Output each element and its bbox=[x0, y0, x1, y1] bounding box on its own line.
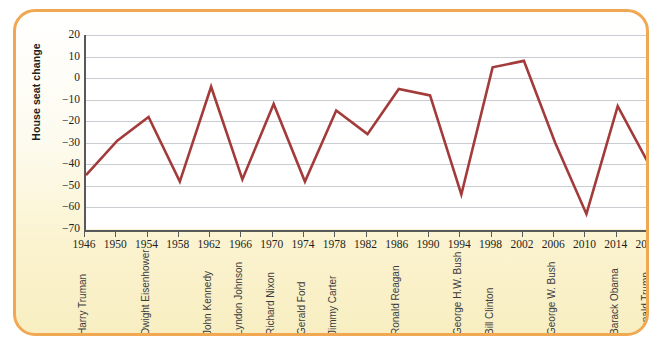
y-tick-label: −10 bbox=[50, 94, 80, 105]
y-axis-line bbox=[84, 35, 86, 231]
series-polyline bbox=[86, 61, 649, 214]
y-tick-label: −30 bbox=[50, 137, 80, 148]
x-tick bbox=[178, 232, 179, 237]
x-tick bbox=[366, 232, 367, 237]
president-label: Richard Nixon bbox=[266, 272, 276, 335]
y-tick-label: 10 bbox=[50, 51, 80, 62]
x-tick bbox=[303, 232, 304, 237]
x-tick bbox=[459, 232, 460, 237]
x-axis-tick-labels: 1946195019541958196219661970197419781982… bbox=[84, 238, 647, 254]
y-tick-label: 20 bbox=[50, 29, 80, 40]
x-tick bbox=[491, 232, 492, 237]
y-tick-label: −50 bbox=[50, 180, 80, 191]
x-tick bbox=[522, 232, 523, 237]
x-tick bbox=[647, 232, 648, 237]
y-tick-label: −60 bbox=[50, 201, 80, 212]
president-label: John Kennedy bbox=[203, 271, 213, 335]
y-axis-tick-labels: 20100−10−20−30−40−50−60−70 bbox=[44, 35, 80, 229]
x-tick bbox=[428, 232, 429, 237]
y-axis-title: House seat change bbox=[30, 32, 42, 152]
y-tick-label: −70 bbox=[50, 223, 80, 234]
x-tick bbox=[272, 232, 273, 237]
x-tick bbox=[334, 232, 335, 237]
chart-card: House seat change 20100−10−20−30−40−50−6… bbox=[13, 9, 649, 336]
series-line bbox=[86, 35, 649, 229]
x-tick bbox=[115, 232, 116, 237]
president-label: Jimmy Carter bbox=[328, 276, 338, 335]
x-tick bbox=[147, 232, 148, 237]
y-tick-label: 0 bbox=[50, 72, 80, 83]
x-tick bbox=[240, 232, 241, 237]
president-label: Donald Trump bbox=[641, 272, 649, 335]
president-label: Bill Clinton bbox=[485, 288, 495, 335]
president-label: Lyndon Johnson bbox=[234, 262, 244, 335]
x-tick bbox=[397, 232, 398, 237]
president-label: Harry Truman bbox=[78, 274, 88, 335]
x-tick-label: 2018 bbox=[627, 238, 649, 250]
y-tick-label: −20 bbox=[50, 115, 80, 126]
president-label: Barack Obama bbox=[610, 268, 620, 335]
plot-area bbox=[84, 35, 649, 229]
x-tick bbox=[584, 232, 585, 237]
x-tick bbox=[209, 232, 210, 237]
chart-figure: House seat change 20100−10−20−30−40−50−6… bbox=[0, 0, 662, 348]
president-label: George W. Bush bbox=[547, 262, 557, 335]
president-label: Ronald Reagan bbox=[391, 266, 401, 336]
president-label: Gerald Ford bbox=[297, 282, 307, 335]
x-tick bbox=[84, 232, 85, 237]
x-tick bbox=[616, 232, 617, 237]
president-annotations: Harry TrumanDwight EisenhowerJohn Kenned… bbox=[84, 255, 647, 335]
president-label: George H.W. Bush bbox=[453, 252, 463, 335]
y-tick-label: −40 bbox=[50, 158, 80, 169]
x-tick bbox=[553, 232, 554, 237]
president-label: Dwight Eisenhower bbox=[141, 249, 151, 335]
